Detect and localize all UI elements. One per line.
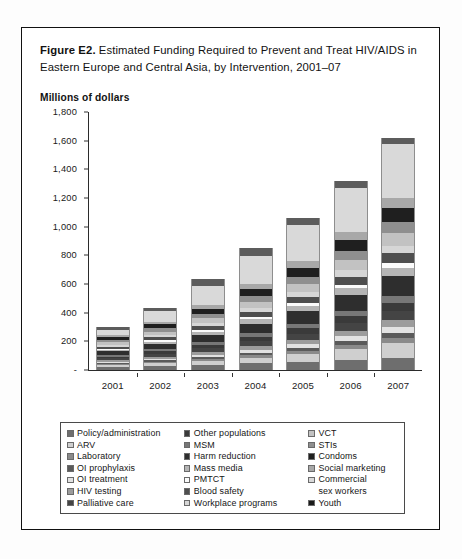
legend-swatch-icon bbox=[184, 465, 191, 472]
legend-item-label: STIs bbox=[318, 440, 337, 452]
legend-item[interactable]: Harm reduction bbox=[184, 451, 309, 463]
bar-segment bbox=[382, 222, 414, 233]
bar-segment bbox=[287, 268, 319, 277]
x-axis-tick-label: 2003 bbox=[197, 380, 219, 391]
legend-item[interactable]: OI treatment bbox=[67, 474, 184, 486]
figure-number: Figure E2. bbox=[40, 44, 96, 56]
bar-segment bbox=[192, 365, 224, 370]
bar-segment bbox=[335, 181, 367, 188]
legend-item[interactable]: MSM bbox=[184, 440, 309, 452]
legend-item-label: VCT bbox=[318, 428, 336, 440]
bar-segment bbox=[287, 297, 319, 304]
figure-title: Figure E2. Estimated Funding Required to… bbox=[40, 42, 422, 75]
stacked-bar bbox=[286, 218, 320, 370]
legend-column-2: Other populationsMSMHarm reductionMass m… bbox=[184, 428, 309, 509]
y-axis-tick-label: 1,800 bbox=[53, 107, 77, 117]
bar-segment bbox=[382, 303, 414, 312]
bar-segment bbox=[287, 277, 319, 284]
legend-item[interactable]: OI prophylaxis bbox=[67, 463, 184, 475]
bar-segment bbox=[240, 248, 272, 257]
legend-item[interactable]: VCT bbox=[308, 428, 398, 440]
bar-segment bbox=[382, 208, 414, 222]
legend-item-label: Harm reduction bbox=[194, 451, 256, 463]
legend-swatch-icon bbox=[67, 442, 74, 449]
legend-item[interactable]: HIV testing bbox=[67, 486, 184, 498]
legend-item-label: Condoms bbox=[318, 451, 357, 463]
y-axis-tick-label: 1,000 bbox=[53, 222, 77, 232]
legend-swatch-icon bbox=[67, 453, 74, 460]
stacked-bar bbox=[191, 279, 225, 370]
legend-item[interactable]: Social marketing bbox=[308, 463, 398, 475]
bar-segment bbox=[335, 260, 367, 270]
x-axis-tick-label: 2004 bbox=[244, 380, 266, 391]
x-axis-tick-label: 2001 bbox=[102, 380, 124, 391]
stacked-bar bbox=[96, 327, 130, 370]
legend-item[interactable]: Mass media bbox=[184, 463, 309, 475]
legend-swatch-icon bbox=[184, 488, 191, 495]
legend-column-1: Policy/administrationARVLaboratoryOI pro… bbox=[67, 428, 184, 509]
bar-segment bbox=[382, 311, 414, 320]
bar-segment bbox=[335, 240, 367, 251]
bar-segment bbox=[335, 360, 367, 370]
bar-segment bbox=[287, 311, 319, 323]
x-axis-tick-label: 2005 bbox=[292, 380, 314, 391]
x-axis-tick-mark bbox=[279, 373, 280, 377]
x-axis-labels: 2001200220032004200520062007 bbox=[89, 373, 422, 397]
bar-segment bbox=[240, 289, 272, 296]
x-axis-tick-mark bbox=[327, 373, 328, 377]
bar-segment bbox=[287, 354, 319, 361]
legend-swatch-icon bbox=[184, 500, 191, 507]
chart-plot-area: -2004006008001,0001,2001,4001,6001,800 2… bbox=[40, 112, 422, 402]
bar-segment bbox=[192, 335, 224, 342]
legend-item[interactable]: Condoms bbox=[308, 451, 398, 463]
legend-swatch-icon bbox=[184, 477, 191, 484]
x-axis-tick-mark bbox=[137, 373, 138, 377]
bar-segment bbox=[144, 366, 176, 370]
legend-item-label: OI prophylaxis bbox=[77, 463, 135, 475]
bar-segment bbox=[192, 286, 224, 305]
legend-item-label: Workplace programs bbox=[194, 498, 278, 510]
y-axis-tick-label: 1,400 bbox=[53, 164, 77, 174]
legend-item[interactable]: Blood safety bbox=[184, 486, 309, 498]
legend-item[interactable]: Commercial sex workers bbox=[308, 474, 398, 497]
bar-segment bbox=[287, 362, 319, 370]
legend-swatch-icon bbox=[67, 477, 74, 484]
legend-swatch-icon bbox=[308, 465, 315, 472]
legend-swatch-icon bbox=[184, 430, 191, 437]
bar-segment bbox=[287, 284, 319, 292]
y-axis-tick-label: 1,200 bbox=[53, 193, 77, 203]
bar-segment bbox=[335, 232, 367, 240]
y-axis-caption: Millions of dollars bbox=[40, 92, 129, 103]
legend-item-label: ARV bbox=[77, 440, 95, 452]
bar-segment bbox=[382, 343, 414, 358]
legend-item-label: Social marketing bbox=[318, 463, 385, 475]
legend-item[interactable]: ARV bbox=[67, 440, 184, 452]
bar-segment bbox=[335, 188, 367, 232]
legend-item[interactable]: Laboratory bbox=[67, 451, 184, 463]
legend-item[interactable]: Workplace programs bbox=[184, 498, 309, 510]
stacked-bar bbox=[381, 138, 415, 370]
x-axis-line bbox=[88, 370, 422, 371]
bar-segment bbox=[382, 198, 414, 208]
bar-segment bbox=[287, 218, 319, 226]
bar-segment bbox=[335, 288, 367, 295]
legend-item[interactable]: Policy/administration bbox=[67, 428, 184, 440]
bar-segment bbox=[240, 324, 272, 334]
x-axis-tick-mark bbox=[232, 373, 233, 377]
figure-panel: Figure E2. Estimated Funding Required to… bbox=[21, 27, 440, 530]
chart-legend: Policy/administrationARVLaboratoryOI pro… bbox=[60, 422, 405, 514]
legend-item[interactable]: Youth bbox=[308, 498, 398, 510]
legend-item[interactable]: Other populations bbox=[184, 428, 309, 440]
legend-item-label: OI treatment bbox=[77, 474, 128, 486]
legend-item[interactable]: STIs bbox=[308, 440, 398, 452]
bar-segment bbox=[335, 251, 367, 260]
legend-item[interactable]: PMTCT bbox=[184, 474, 309, 486]
bar-segment bbox=[240, 256, 272, 284]
bar-segment bbox=[382, 253, 414, 263]
x-axis-tick-label: 2002 bbox=[149, 380, 171, 391]
bar-segment bbox=[335, 295, 367, 310]
x-axis-tick-label: 2007 bbox=[387, 380, 409, 391]
legend-item[interactable]: Palliative care bbox=[67, 498, 184, 510]
y-axis-labels: -2004006008001,0001,2001,4001,6001,800 bbox=[40, 112, 84, 370]
bar-segment bbox=[382, 320, 414, 327]
